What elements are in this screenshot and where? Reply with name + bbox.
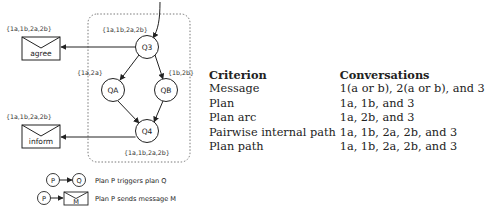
conversations-cell: 1a, 1b, 2a, 2b, and 3 bbox=[340, 126, 489, 141]
plan-node-qb: QB bbox=[155, 79, 178, 102]
table-row: Message 1(a or b), 2(a or b), and 3 bbox=[209, 82, 489, 97]
plan-node-qa: QA bbox=[102, 79, 125, 102]
criterion-cell: Plan path bbox=[209, 140, 340, 155]
table-row: Plan 1a, 1b, and 3 bbox=[209, 97, 489, 112]
table-header-row: Criterion Conversations bbox=[209, 68, 489, 82]
conversations-cell: 1a, 1b, and 3 bbox=[340, 97, 489, 112]
legend-message-m-label: M bbox=[73, 198, 79, 206]
message-inform-set: {1a,1b,2a,2b} bbox=[6, 113, 52, 121]
table-row: Plan arc 1a, 2b, and 3 bbox=[209, 111, 489, 126]
legend-plan-p-label: P bbox=[51, 177, 55, 185]
coverage-criteria-table: Criterion Conversations Message 1(a or b… bbox=[209, 68, 489, 155]
conversations-cell: 1a, 2b, and 3 bbox=[340, 111, 489, 126]
criterion-cell: Plan arc bbox=[209, 111, 340, 126]
incoming-trigger-arrow bbox=[153, 2, 160, 38]
criterion-cell: Plan bbox=[209, 97, 340, 112]
plan-node-q4-label: Q4 bbox=[142, 127, 153, 136]
qa-triggers-q4-arrow bbox=[118, 101, 139, 123]
plan-node-qb-label: QB bbox=[160, 86, 171, 95]
legend-plan-q-label: Q bbox=[76, 177, 81, 185]
plan-node-qb-set: {1b,2b} bbox=[168, 69, 194, 77]
plan-node-qa-label: QA bbox=[107, 86, 119, 95]
message-inform-label: inform bbox=[29, 137, 53, 146]
plan-node-q3-label: Q3 bbox=[142, 43, 153, 52]
legend-plan-p2-label: P bbox=[42, 195, 46, 203]
q3-triggers-qb-arrow bbox=[155, 55, 163, 79]
legend-sends: P M Plan P sends message M bbox=[38, 192, 177, 206]
table-row: Plan path 1a, 1b, 2a, 2b, and 3 bbox=[209, 140, 489, 155]
qb-triggers-q4-arrow bbox=[154, 101, 163, 122]
message-agree-label: agree bbox=[30, 49, 52, 58]
plan-node-q4: Q4 bbox=[136, 120, 159, 143]
legend-triggers-text: Plan P triggers plan Q bbox=[95, 177, 167, 185]
criterion-cell: Message bbox=[209, 82, 340, 97]
q3-triggers-qa-arrow bbox=[120, 55, 139, 80]
conversations-cell: 1(a or b), 2(a or b), and 3 bbox=[340, 82, 489, 97]
conversations-cell: 1a, 1b, 2a, 2b, and 3 bbox=[340, 140, 489, 155]
criterion-cell: Pairwise internal path bbox=[209, 126, 340, 141]
plan-node-q4-set: {1a,1b,2a,2b} bbox=[124, 149, 170, 157]
plan-node-qa-set: {1a,2a} bbox=[77, 69, 103, 77]
plan-node-q3-set: {1a,1b,2a,2b} bbox=[102, 26, 148, 34]
table-row: Pairwise internal path 1a, 1b, 2a, 2b, a… bbox=[209, 126, 489, 141]
legend-sends-text: Plan P sends message M bbox=[95, 195, 176, 203]
message-agree-set: {1a,1b,2a,2b} bbox=[6, 25, 52, 33]
legend-triggers: P Q Plan P triggers plan Q bbox=[47, 174, 167, 187]
header-conversations: Conversations bbox=[340, 68, 489, 82]
header-criterion: Criterion bbox=[209, 68, 340, 82]
